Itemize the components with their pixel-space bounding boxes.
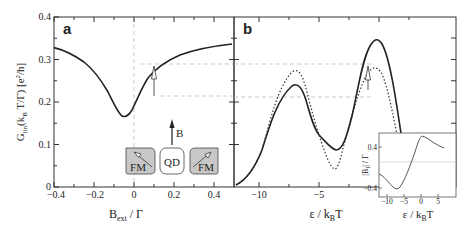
xtick-neg5: −5 (314, 189, 325, 200)
inset-frame (379, 133, 456, 197)
panel-b-label: b (243, 20, 252, 37)
xtick-0.2: 0.2 (168, 189, 181, 200)
panel-a-xtick-labels: −0.4 −0.2 0 0.2 0.4 (47, 189, 220, 200)
xtick-neg10: −10 (251, 189, 267, 200)
inset-ylabel: |BI| / Γ (361, 154, 371, 176)
ytick-0.4: 0.4 (39, 11, 52, 22)
panel-b-xtick-labels: −10 −5 (251, 189, 324, 200)
inset-ytick-neg0.4: −0.4 (363, 184, 377, 193)
inset-xtick-neg5: −5 (400, 197, 408, 206)
panel-b-right-ticks (451, 38, 456, 123)
arrow-up-icon (366, 66, 371, 90)
inset-xtick-5: 5 (436, 197, 440, 206)
panel-a-ytick-labels: 0 0.1 0.2 0.3 0.4 (39, 11, 52, 192)
device-schematic: FM QD FM B (126, 119, 218, 174)
xtick-neg0.2: −0.2 (86, 189, 104, 200)
inset-xlabel: ε / kBT (403, 208, 434, 223)
xtick-neg0.4: −0.4 (47, 189, 65, 200)
inset-xtick-neg10: −10 (381, 197, 393, 206)
panel-a-xlabel: Bext / Γ (109, 207, 143, 223)
figure: 0 0.1 0.2 0.3 0.4 −0.4 −0.2 0 0.2 0.4 Be… (0, 0, 472, 229)
panel-a-label: a (63, 20, 72, 37)
panel-a: 0 0.1 0.2 0.3 0.4 −0.4 −0.2 0 0.2 0.4 Be… (14, 11, 239, 223)
xtick-0.4: 0.4 (208, 189, 221, 200)
inset: −10 −5 0 5 0.4 −0.4 |BI| / Γ ε / kBT (361, 133, 456, 223)
fm-left-label: FM (130, 161, 146, 173)
ytick-0.3: 0.3 (39, 54, 52, 65)
inset-ytick-0.4: 0.4 (368, 143, 378, 152)
ytick-0.2: 0.2 (39, 96, 52, 107)
xtick-0: 0 (132, 189, 137, 200)
ytick-0.1: 0.1 (39, 139, 52, 150)
panel-b-xlabel: ε / kBT (309, 207, 343, 223)
field-label: B (176, 127, 183, 139)
panel-b: −10 −5 ε / kBT b (234, 17, 456, 223)
panel-a-ylabel: Glin(kB T/Γ) [e2/h] (14, 63, 29, 142)
inset-xtick-labels: −10 −5 0 5 (381, 197, 440, 206)
panel-a-yticks (54, 17, 59, 187)
inset-xtick-0: 0 (419, 197, 423, 206)
magnetic-field-arrow-icon: B (170, 119, 184, 145)
panel-a-curve (54, 44, 232, 117)
fm-right-label: FM (198, 161, 214, 173)
qd-label: QD (164, 156, 180, 168)
